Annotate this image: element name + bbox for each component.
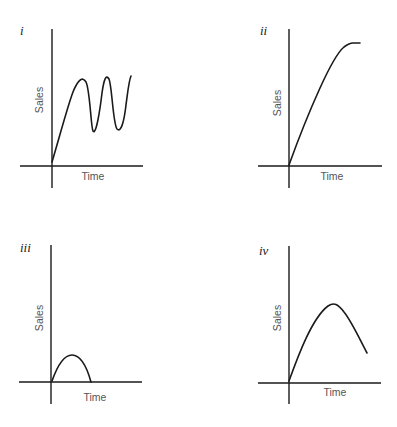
sales-curve — [289, 304, 367, 381]
x-axis-label: Time — [82, 170, 105, 182]
panel-label: iv — [259, 243, 269, 258]
sales-curve — [52, 355, 91, 382]
x-axis-label: Time — [324, 386, 347, 398]
sales-curve — [289, 43, 360, 165]
x-axis-label: Time — [321, 170, 344, 182]
panel-i: i Sales Time — [20, 23, 143, 188]
panel-ii: ii Sales Time — [258, 23, 382, 188]
panel-iii: iii Sales Time — [19, 240, 142, 404]
y-axis-label: Sales — [271, 305, 283, 331]
y-axis-label: Sales — [33, 87, 45, 113]
panel-label: ii — [260, 23, 268, 38]
y-axis-label: Sales — [271, 90, 283, 116]
x-axis-label: Time — [84, 391, 107, 403]
sales-curve — [52, 76, 131, 162]
panel-label: iii — [20, 240, 31, 255]
sales-curves-figure: i Sales Time ii Sales Time iii Sales Tim… — [0, 0, 397, 427]
panel-label: i — [20, 23, 24, 38]
panel-iv: iv Sales Time — [258, 243, 381, 404]
y-axis-label: Sales — [33, 305, 45, 331]
